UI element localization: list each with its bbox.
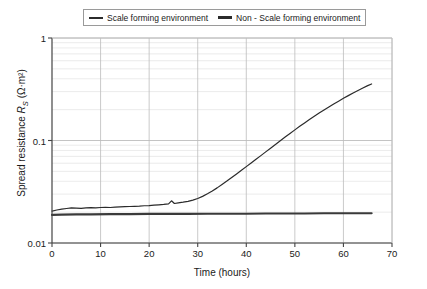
series-line-2 xyxy=(52,213,372,215)
minor-gridlines xyxy=(52,43,392,212)
legend-swatch-scale-forming xyxy=(89,17,103,19)
chart-legend: Scale forming environment Non - Scale fo… xyxy=(83,9,366,26)
series-line-1 xyxy=(52,84,372,211)
legend-label-scale-forming: Scale forming environment xyxy=(107,13,208,23)
legend-label-non-scale-forming: Non - Scale forming environment xyxy=(236,13,360,23)
legend-entry-non-scale-forming: Non - Scale forming environment xyxy=(218,13,360,23)
axis-ticks xyxy=(48,38,392,247)
plot-area xyxy=(0,0,427,289)
legend-entry-scale-forming: Scale forming environment xyxy=(89,13,208,23)
chart-figure: Scale forming environment Non - Scale fo… xyxy=(0,0,427,289)
legend-swatch-non-scale-forming xyxy=(218,16,232,19)
